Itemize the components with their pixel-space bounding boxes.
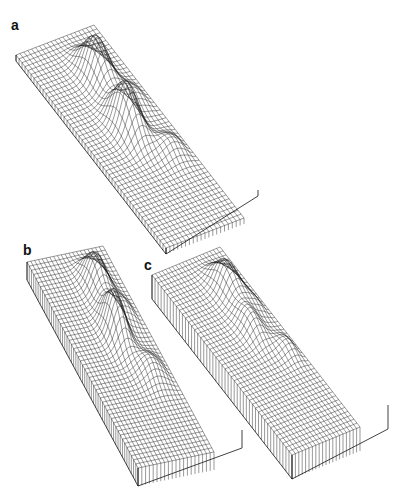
surface-plot-a [16,25,258,254]
surface-plot-c [152,247,388,479]
surface-plots [0,0,408,501]
